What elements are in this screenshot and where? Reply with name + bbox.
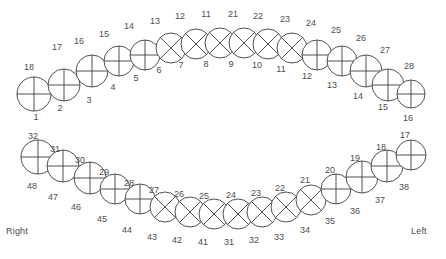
tooth-number-inner: 48 [27,181,37,191]
orientation-label-right: Right [6,226,28,236]
tooth-17-38[interactable]: 1738 [396,130,426,192]
tooth-number-outer: 26 [174,189,184,199]
tooth-number-inner: 34 [300,225,310,235]
tooth-31-47[interactable]: 3147 [47,144,79,202]
tooth-number-outer: 27 [380,45,390,55]
tooth-number-inner: 1 [33,112,38,122]
tooth-number-outer: 24 [306,18,316,28]
tooth-number-outer: 16 [74,36,84,46]
tooth-number-inner: 16 [403,113,413,123]
tooth-number-outer: 22 [253,11,263,21]
tooth-17-2[interactable]: 172 [48,42,80,113]
tooth-number-inner: 9 [228,59,233,69]
tooth-number-outer: 25 [199,191,209,201]
tooth-number-inner: 46 [71,202,81,212]
tooth-number-outer: 20 [325,165,335,175]
tooth-number-inner: 42 [172,235,182,245]
tooth-number-inner: 38 [399,182,409,192]
tooth-number-outer: 30 [75,155,85,165]
tooth-number-outer: 26 [356,33,366,43]
tooth-number-inner: 12 [302,71,312,81]
tooth-number-outer: 23 [280,14,290,24]
orientation-label-left: Left [411,226,427,236]
tooth-number-inner: 10 [252,60,262,70]
upper-arch: 1811721631541451361271182192210231124122… [17,9,425,123]
dental-odontogram: 1811721631541451361271182192210231124122… [0,0,446,259]
tooth-number-inner: 36 [350,206,360,216]
tooth-number-inner: 41 [198,237,208,247]
tooth-number-outer: 28 [124,178,134,188]
tooth-number-outer: 12 [175,11,185,21]
tooth-number-outer: 22 [275,183,285,193]
tooth-number-inner: 3 [86,95,91,105]
tooth-22-10[interactable]: 2210 [252,11,283,70]
tooth-number-outer: 11 [201,9,210,19]
tooth-number-inner: 14 [353,91,363,101]
tooth-number-inner: 44 [122,225,132,235]
tooth-number-inner: 32 [249,235,259,245]
tooth-16-3[interactable]: 163 [74,36,108,105]
tooth-number-outer: 32 [28,131,38,141]
tooth-number-inner: 7 [178,60,183,70]
tooth-number-outer: 27 [149,185,159,195]
tooth-number-inner: 37 [375,195,385,205]
tooth-15-4[interactable]: 154 [99,29,134,92]
tooth-number-outer: 18 [376,142,386,152]
lower-arch: 3248314730462945284427432642254124312332… [21,130,426,247]
tooth-number-outer: 13 [150,16,160,26]
tooth-number-inner: 15 [378,102,388,112]
tooth-18-1[interactable]: 181 [17,62,51,122]
tooth-number-inner: 13 [327,80,337,90]
tooth-22-33[interactable]: 2233 [271,183,301,242]
tooth-number-inner: 2 [57,103,62,113]
tooth-number-outer: 15 [99,29,109,39]
tooth-24-12[interactable]: 2412 [302,18,332,81]
tooth-number-inner: 35 [325,216,335,226]
tooth-number-inner: 8 [203,59,208,69]
tooth-number-inner: 45 [97,214,107,224]
tooth-number-inner: 5 [133,73,138,83]
tooth-number-inner: 43 [147,232,157,242]
tooth-28-16[interactable]: 2816 [397,61,425,123]
tooth-number-inner: 33 [274,232,284,242]
tooth-23-11[interactable]: 2311 [276,14,307,74]
tooth-number-outer: 19 [350,153,360,163]
tooth-23-32[interactable]: 2332 [247,188,277,245]
tooth-number-outer: 29 [99,167,109,177]
tooth-number-inner: 31 [224,237,234,247]
tooth-number-outer: 28 [404,61,414,71]
tooth-number-outer: 21 [228,9,238,19]
tooth-number-outer: 17 [400,130,410,140]
tooth-number-inner: 47 [48,192,58,202]
tooth-number-outer: 24 [226,190,236,200]
tooth-number-outer: 23 [251,188,261,198]
tooth-number-outer: 31 [50,144,60,154]
tooth-number-inner: 11 [276,64,285,74]
tooth-number-outer: 21 [300,175,310,185]
tooth-number-outer: 14 [124,21,134,31]
tooth-number-inner: 6 [156,65,161,75]
tooth-number-outer: 18 [24,62,34,72]
tooth-number-outer: 17 [52,42,62,52]
tooth-number-inner: 4 [110,82,115,92]
tooth-number-outer: 25 [331,25,341,35]
